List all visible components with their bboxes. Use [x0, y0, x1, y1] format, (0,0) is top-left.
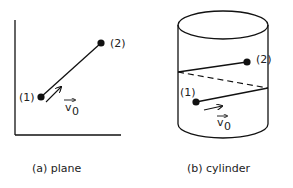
velocity-arrow-icon — [204, 106, 222, 110]
point-2-label: (2) — [110, 37, 126, 50]
point-1-label: (1) — [19, 91, 35, 104]
point-2 — [243, 58, 250, 65]
caption-cylinder: (b) cylinder — [187, 162, 250, 175]
caption-plane: (a) plane — [32, 162, 82, 175]
point-2 — [97, 39, 104, 46]
panel-cylinder: (1) (2) v 0 (b) cylinder — [178, 11, 272, 175]
velocity-label: v — [65, 101, 72, 114]
point-2-label: (2) — [256, 53, 272, 66]
figure: (1) (2) v 0 (a) plane (1) (2) v 0 (b) cy… — [0, 0, 293, 188]
helix-upper — [178, 62, 247, 72]
point-1 — [37, 93, 44, 100]
velocity-arrow-icon — [46, 87, 61, 102]
velocity-label: v — [217, 116, 224, 129]
helix-lower — [196, 88, 268, 102]
velocity-subscript: 0 — [224, 120, 231, 133]
point-1-label: (1) — [180, 86, 196, 99]
point-1 — [192, 98, 199, 105]
velocity-subscript: 0 — [72, 105, 79, 118]
panel-plane: (1) (2) v 0 (a) plane — [15, 20, 126, 175]
trajectory-line — [41, 43, 101, 97]
cylinder-top — [178, 11, 268, 39]
